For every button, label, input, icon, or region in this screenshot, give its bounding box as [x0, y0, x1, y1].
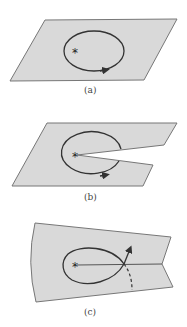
singular-point-b: * — [72, 150, 78, 164]
panel-b: * (b) — [12, 123, 177, 202]
panel-label-a: (a) — [84, 85, 96, 95]
singular-point-c: * — [72, 260, 78, 274]
panel-c: * (c) — [31, 223, 173, 317]
panel-a: * (a) — [10, 19, 177, 95]
sheet-a — [10, 19, 177, 81]
panel-label-c: (c) — [84, 307, 96, 317]
figure-canvas: * (a) * (b) * (c) — [0, 0, 187, 327]
sheet-c — [31, 223, 173, 302]
singular-point-a: * — [72, 46, 78, 60]
panel-label-b: (b) — [84, 192, 97, 202]
sheet-b — [12, 123, 177, 186]
